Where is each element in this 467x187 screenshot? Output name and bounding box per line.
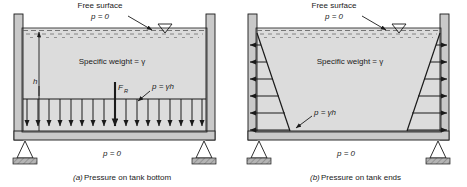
depth-label-a: h — [33, 77, 38, 86]
caption-tag-b: (b) — [310, 173, 320, 182]
figure-canvas: Free surface p = 0 Specific weight = γ h — [0, 0, 467, 187]
resultant-force-subscript-a: R — [124, 88, 128, 94]
pressure-relation-label-a: p = γh — [151, 82, 175, 91]
bottom-pressure-label-b: p = 0 — [336, 149, 356, 158]
support-right-a — [192, 141, 216, 164]
panel-b: Free surface p = 0 Specific weight = γ — [247, 1, 450, 182]
specific-weight-label-a: Specific weight = γ — [79, 57, 145, 66]
specific-weight-label-b: Specific weight = γ — [317, 57, 383, 66]
support-right-b — [426, 141, 450, 164]
support-left-b — [247, 141, 271, 164]
free-surface-label-a: Free surface — [78, 1, 123, 10]
caption-tag-a: (a) — [73, 173, 83, 182]
free-surface-pressure-label-a: p = 0 — [90, 12, 110, 21]
pressure-figure: Free surface p = 0 Specific weight = γ h — [0, 0, 467, 187]
free-surface-label-b: Free surface — [312, 1, 357, 10]
bottom-pressure-label-a: p = 0 — [102, 149, 122, 158]
panel-a: Free surface p = 0 Specific weight = γ h — [13, 1, 216, 182]
free-surface-pressure-label-b: p = 0 — [324, 12, 344, 21]
fluid-region-b — [256, 28, 441, 133]
caption-text-a: Pressure on tank bottom — [84, 173, 171, 182]
pressure-relation-label-b: p = γh — [313, 108, 337, 117]
caption-text-b: Pressure on tank ends — [321, 173, 401, 182]
support-left-a — [13, 141, 37, 164]
